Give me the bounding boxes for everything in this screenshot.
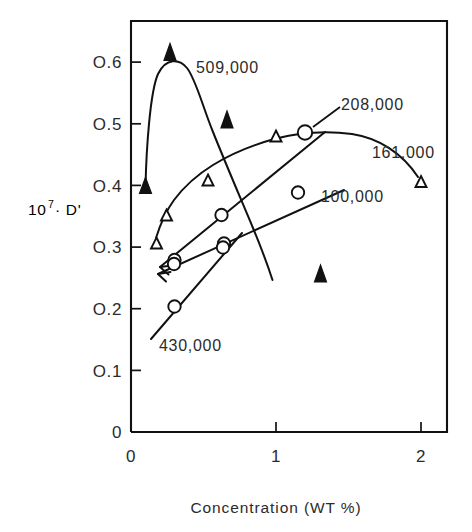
open-circle-marker: [168, 300, 180, 312]
y-tick-label-0.4: O.4: [93, 177, 122, 196]
curve-label-100000: 100,000: [321, 188, 384, 205]
curve-label-430000: 430,000: [159, 337, 222, 354]
y-tick-label-0: 0: [112, 423, 122, 442]
y-axis-title-base: 10: [28, 201, 47, 218]
y-axis-title-exponent: 7: [48, 198, 54, 210]
x-tick-label-2: 2: [416, 447, 426, 466]
y-tick-label-0.2: O.2: [93, 300, 122, 319]
figure-background: [0, 0, 472, 532]
open-circle-marker: [215, 209, 227, 221]
x-tick-label-1: 1: [271, 447, 281, 466]
y-tick-label-0.6: O.6: [93, 53, 122, 72]
y-axis-title: 10 7 · D': [28, 198, 81, 218]
y-tick-label-0.3: O.3: [93, 238, 122, 257]
curve-label-161000: 161,000: [372, 144, 435, 161]
open-circle-marker: [168, 258, 180, 270]
curve-label-208000: 208,000: [341, 96, 404, 113]
x-axis-title: Concentration (WT %): [190, 499, 361, 516]
diffusion-coefficient-chart: 0 O.1 O.2 O.3 O.4 O.5 O.6 10 7 · D' 0 1 …: [0, 0, 472, 532]
open-circle-marker: [292, 186, 304, 198]
y-axis-title-tail: · D': [55, 201, 81, 218]
open-circle-marker: [217, 241, 229, 253]
curve-label-509000: 509,000: [196, 59, 259, 76]
y-tick-label-0.5: O.5: [93, 115, 122, 134]
open-circle-marker: [298, 125, 312, 139]
x-tick-label-0: 0: [126, 447, 136, 466]
y-tick-label-0.1: O.1: [93, 362, 122, 381]
